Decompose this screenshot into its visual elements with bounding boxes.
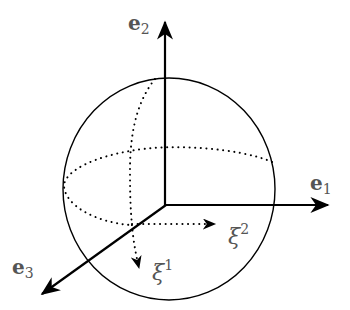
- label-xi1: ξ1: [152, 257, 173, 285]
- label-xi2: ξ2: [228, 221, 249, 249]
- coordinate-sphere-diagram: e2 e1 e3 ξ2 ξ1: [0, 0, 350, 310]
- xi1-coordinate-curve: [130, 79, 155, 268]
- label-e1: e1: [310, 171, 332, 197]
- axis-e3: [42, 205, 166, 294]
- label-e3: e3: [12, 255, 34, 281]
- equator-dotted: [64, 147, 272, 225]
- label-e2: e2: [128, 11, 150, 37]
